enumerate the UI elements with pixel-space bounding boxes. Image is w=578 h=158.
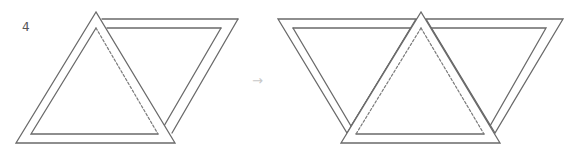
after-figure	[278, 12, 563, 143]
arrow-right-icon: →	[252, 73, 263, 88]
before-figure	[16, 12, 238, 143]
folding-diagram: 4 →	[0, 0, 578, 158]
diagram-canvas	[0, 0, 578, 158]
step-number-label: 4	[22, 20, 30, 34]
front-triangle-shape	[16, 12, 175, 143]
